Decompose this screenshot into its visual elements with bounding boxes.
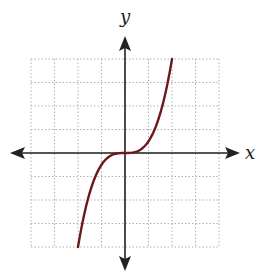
- y-axis-label: y: [119, 6, 131, 27]
- x-axis-label: x: [245, 142, 255, 163]
- cubic-function-graph: x y: [0, 0, 261, 276]
